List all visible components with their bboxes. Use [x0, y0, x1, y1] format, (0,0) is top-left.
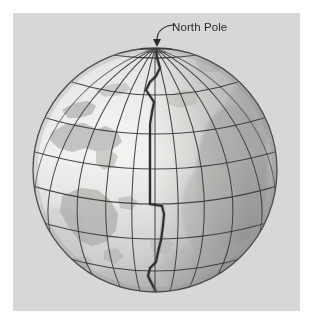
- globe-diagram-canvas: North Pole: [0, 0, 313, 330]
- figure-root: North Pole: [0, 0, 313, 330]
- north-pole-label: North Pole: [172, 21, 227, 33]
